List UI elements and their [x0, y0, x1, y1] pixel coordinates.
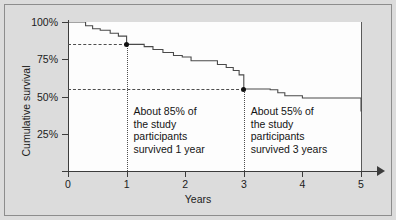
x-axis-title: Years — [0, 193, 396, 205]
x-tick-mark — [127, 172, 128, 177]
x-tick-mark — [185, 172, 186, 177]
x-tick-mark — [244, 172, 245, 177]
x-tick-mark — [302, 172, 303, 177]
x-tick-label: 3 — [234, 178, 254, 190]
x-tick-label: 2 — [175, 178, 195, 190]
three-year-survival-marker — [241, 87, 246, 92]
x-tick-label: 0 — [58, 178, 78, 190]
x-tick-label: 4 — [292, 178, 312, 190]
x-tick-label: 5 — [351, 178, 371, 190]
one-year-annotation: About 85% of the study participants surv… — [134, 105, 205, 155]
x-axis-arrow-icon — [377, 166, 385, 176]
y-axis-title-holder: Cumulative survival — [8, 20, 26, 170]
x-tick-mark — [361, 172, 362, 177]
x-tick-label: 1 — [117, 178, 137, 190]
one-year-survival-marker — [124, 42, 129, 47]
figure-container: 25%50%75%100% 012345 About 85% of the st… — [0, 0, 396, 220]
y-axis-title: Cumulative survival — [20, 41, 32, 181]
x-tick-mark — [68, 172, 69, 177]
three-year-annotation: About 55% of the study participants surv… — [251, 105, 327, 155]
